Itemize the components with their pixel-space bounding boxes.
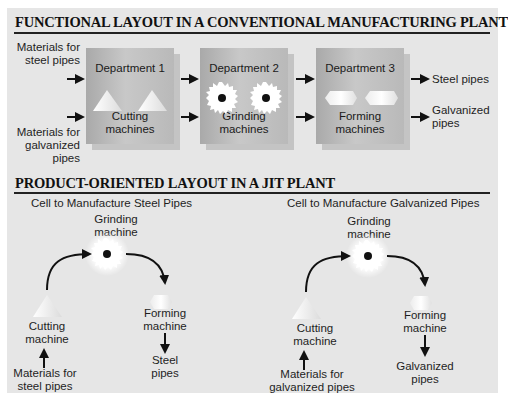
cutting-machine-icon: [138, 90, 167, 111]
cutting-machine-icon: [33, 295, 62, 317]
forming-machine-icon: [410, 296, 432, 310]
forming-machine-icon: [325, 91, 357, 105]
grinding-machine-icon: [250, 82, 282, 114]
cutting-machine-icon: [93, 90, 122, 111]
forming-machine-icon: [365, 91, 398, 105]
cutting-machine-icon: [292, 297, 321, 319]
grinding-machine-icon: [206, 82, 238, 114]
forming-machine-icon: [150, 295, 172, 309]
